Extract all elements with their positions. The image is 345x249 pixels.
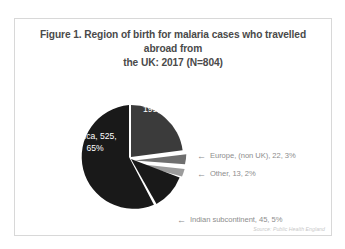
figure-container: Figure 1. Region of birth for malaria ca… <box>14 18 332 236</box>
slice-label-africa-line-1: Africa, 525, <box>52 131 138 143</box>
callout-indian-label: Indian subcontinent, 45, 5% <box>190 215 282 224</box>
figure-title-line-1: Figure 1. Region of birth for malaria ca… <box>40 29 306 54</box>
slice-label-uk-line-2: Kingdom, <box>143 93 179 105</box>
callout-europe: ←Europe, (non UK), 22, 3% <box>197 151 296 161</box>
callout-indian-subcontinent: ←Indian subcontinent, 45, 5% <box>177 215 282 225</box>
callout-europe-label: Europe, (non UK), 22, 3% <box>210 151 296 160</box>
slice-label-uk-line-3: 199, 25% <box>143 104 179 116</box>
arrow-left-icon: ← <box>177 216 186 225</box>
slice-label-uk-line-1: United <box>143 81 179 93</box>
callout-other: ←Other, 13, 2% <box>197 169 256 179</box>
slice-label-africa-line-2: 65% <box>52 143 138 155</box>
slice-label-united-kingdom: United Kingdom, 199, 25% <box>143 81 179 116</box>
slice-label-africa: Africa, 525, 65% <box>52 131 138 154</box>
pie-chart: United Kingdom, 199, 25% Africa, 525, 65… <box>15 57 331 235</box>
source-note: Source: Public Health England <box>253 226 325 232</box>
callout-other-label: Other, 13, 2% <box>210 169 256 178</box>
arrow-left-icon: ← <box>197 152 206 161</box>
arrow-left-icon: ← <box>197 170 206 179</box>
pie-slice-europe[interactable] <box>135 154 187 164</box>
